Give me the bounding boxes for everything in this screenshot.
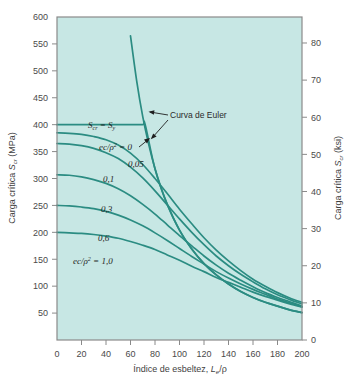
bottom-tick-label: 160 [245,349,260,359]
right-tick-label: 60 [311,113,321,123]
bottom-tick-label: 120 [196,349,211,359]
left-tick-label: 200 [33,228,48,238]
left-tick-label: 350 [33,147,48,157]
left-tick-label: 150 [33,255,48,265]
bottom-tick-label: 200 [294,349,309,359]
left-tick-label: 600 [33,12,48,22]
left-axis-title: Carga crítica Scr (MPa) [7,132,18,224]
left-tick-label: 100 [33,281,48,291]
bottom-tick-label: 100 [172,349,187,359]
right-tick-label: 50 [311,150,321,160]
yield-stress-annotation: Scr = Sy [88,120,116,131]
curve-label-01: 0,1 [103,174,114,184]
bottom-tick-label: 40 [101,349,111,359]
bottom-tick-label: 0 [54,349,59,359]
left-tick-label: 550 [33,39,48,49]
bottom-tick-label: 140 [221,349,236,359]
bottom-tick-label: 20 [76,349,86,359]
right-tick-label: 30 [311,224,321,234]
left-tick-label: 250 [33,201,48,211]
left-tick-label: 50 [38,308,48,318]
figure-container: 50100150200250300350400450500550600 0102… [0,0,349,385]
curve-label-005: 0,05 [128,159,144,169]
euler-curve-annotation: Curva de Euler [170,110,227,120]
bottom-axis-title: Índice de esbeltez, Le/ρ [133,364,227,375]
left-tick-label: 300 [33,174,48,184]
left-tick-label: 400 [33,120,48,130]
curve-label-03: 0,3 [101,204,113,214]
left-tick-label: 500 [33,66,48,76]
column-buckling-chart: 50100150200250300350400450500550600 0102… [0,0,349,385]
right-tick-label: 10 [311,298,321,308]
eccentricity-one-annotation: ec/ρ2 = 1,0 [73,256,113,266]
right-tick-label: 20 [311,261,321,271]
right-axis-title: Carga crítica Scr (ksi) [333,136,344,220]
bottom-tick-label: 80 [150,349,160,359]
right-tick-label: 80 [311,38,321,48]
plot-area-background [57,17,302,340]
curve-label-06: 0,6 [98,233,110,243]
right-tick-label: 40 [311,187,321,197]
bottom-tick-label: 180 [270,349,285,359]
left-tick-label: 450 [33,93,48,103]
right-tick-label: 70 [311,75,321,85]
right-tick-label: 0 [311,335,316,345]
bottom-tick-label: 60 [125,349,135,359]
